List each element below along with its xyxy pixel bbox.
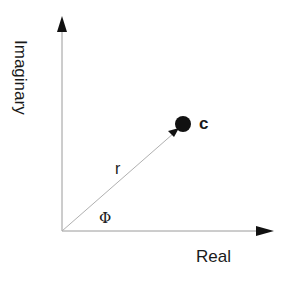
imaginary-axis-arrowhead-icon (57, 16, 67, 32)
angle-label: Φ (99, 209, 111, 227)
real-axis-arrowhead-icon (256, 226, 274, 236)
real-axis-label: Real (196, 247, 231, 267)
imaginary-axis-label: Imaginary (10, 40, 30, 115)
point-c-marker (175, 116, 191, 132)
complex-plane-diagram: Imaginary Real c r Φ (0, 0, 292, 281)
point-c-label: c (199, 114, 208, 134)
magnitude-label: r (115, 160, 120, 178)
magnitude-vector (62, 133, 174, 231)
diagram-graphics (0, 0, 292, 281)
